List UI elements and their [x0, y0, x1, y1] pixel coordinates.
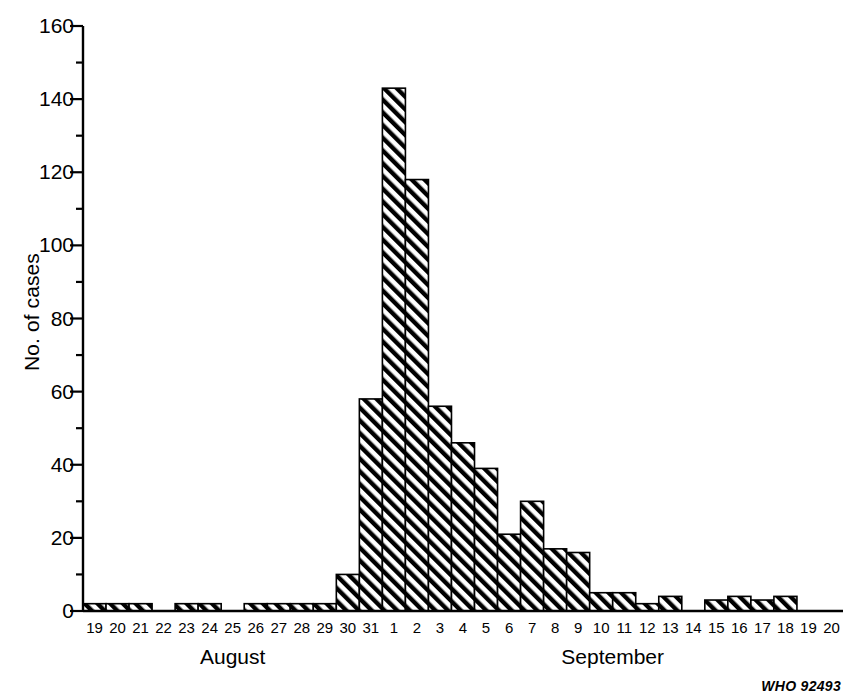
bar: [336, 574, 359, 611]
bar: [613, 593, 636, 611]
plot-area: [0, 0, 853, 700]
epidemic-curve-chart: No. of cases 020406080100120140160 19202…: [0, 0, 853, 700]
bar: [475, 468, 498, 611]
bar: [728, 596, 751, 611]
x-tick-label: 20: [817, 620, 845, 635]
bar: [359, 399, 382, 611]
bar: [544, 549, 567, 611]
bar: [774, 596, 797, 611]
y-axis-ticks: [70, 26, 83, 611]
bar: [428, 406, 451, 611]
bar: [751, 600, 774, 611]
bar: [659, 596, 682, 611]
bar: [405, 180, 428, 611]
bar: [498, 534, 521, 611]
bar: [451, 443, 474, 611]
month-label: August: [133, 645, 333, 669]
who-credit-label: WHO 92493: [761, 678, 841, 694]
bar: [567, 553, 590, 612]
bar-series: [83, 88, 797, 611]
bar: [521, 501, 544, 611]
bar: [590, 593, 613, 611]
month-label: September: [513, 645, 713, 669]
bar: [705, 600, 728, 611]
bar: [382, 88, 405, 611]
